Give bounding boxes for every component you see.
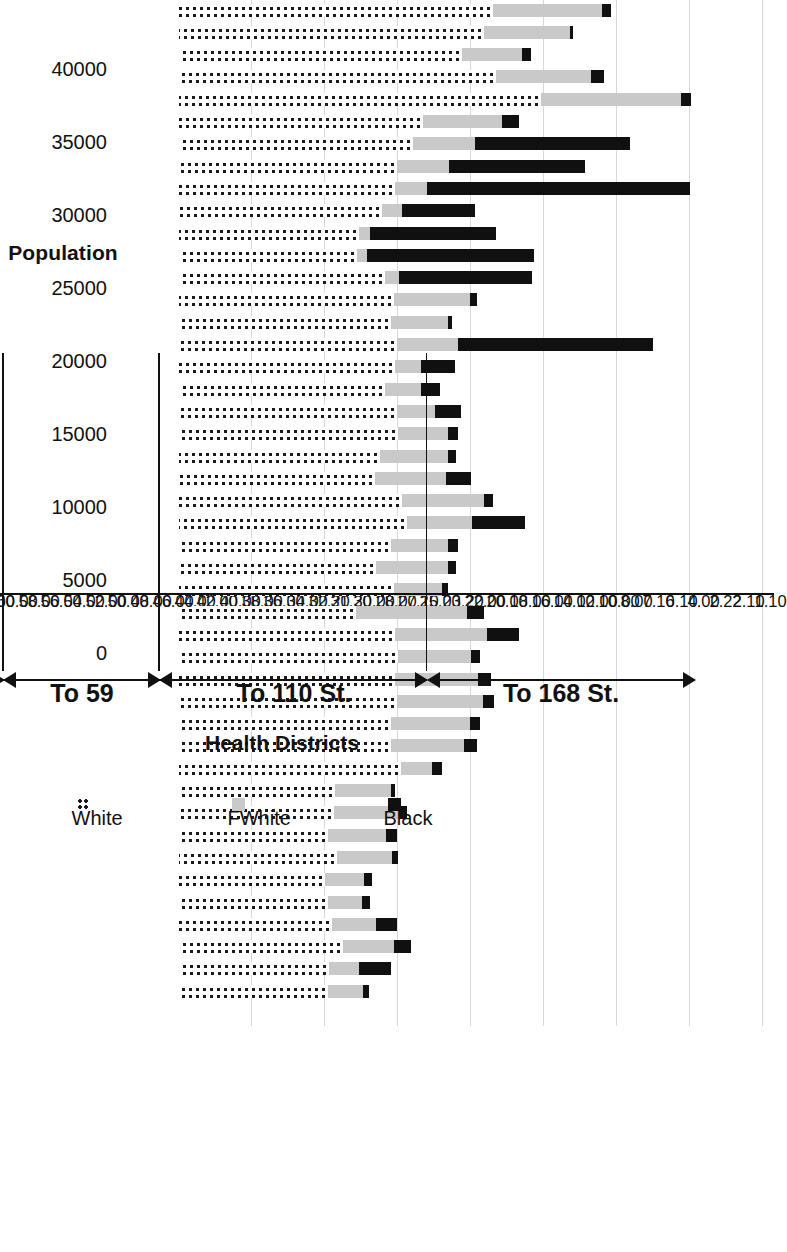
bar-segment-black [448, 316, 452, 329]
bar-segment-fwhite [397, 160, 450, 173]
bar-segment-black [370, 227, 496, 240]
bar-stack [179, 606, 484, 619]
bar-stack [179, 873, 372, 886]
value-axis-tick-label: 25000 [0, 277, 107, 299]
bar-segment-fwhite [541, 93, 681, 106]
bar-stack [179, 494, 493, 507]
category-axis-line [0, 593, 774, 595]
bar-segment-fwhite [357, 249, 367, 262]
bar-segment-black [602, 4, 611, 17]
bar-stack [179, 717, 480, 730]
bar-stack [179, 962, 391, 975]
bar-segment-white [179, 249, 357, 262]
bar-segment-black [427, 182, 690, 195]
bar-segment-black [364, 873, 371, 886]
bar-segment-white [179, 427, 398, 440]
value-gridline [470, 0, 471, 1026]
bar-segment-white [179, 472, 375, 485]
bar-segment-fwhite [385, 383, 422, 396]
bar-segment-fwhite [381, 450, 448, 463]
bar-segment-fwhite [462, 48, 522, 61]
bar-stack [179, 227, 496, 240]
bar-stack [179, 762, 442, 775]
bar-stack [179, 316, 452, 329]
value-axis-tick-label: 5000 [0, 569, 107, 591]
bar-segment-fwhite [328, 985, 363, 998]
bar-segment-fwhite [337, 851, 392, 864]
bar-segment-white [179, 940, 343, 953]
bar-segment-fwhite [397, 405, 435, 418]
bar-segment-white [179, 717, 391, 730]
bar-stack [179, 70, 604, 83]
value-gridline [397, 0, 398, 1026]
bar-segment-black [464, 739, 477, 752]
bar-segment-white [179, 539, 391, 552]
bar-segment-black [448, 450, 457, 463]
bar-segment-fwhite [401, 762, 432, 775]
bar-segment-black [363, 985, 369, 998]
bar-segment-fwhite [332, 918, 376, 931]
bar-stack [179, 249, 534, 262]
bar-stack [179, 427, 458, 440]
bar-segment-black [394, 940, 412, 953]
bar-segment-white [179, 851, 337, 864]
bar-segment-fwhite [335, 784, 390, 797]
bar-segment-fwhite [376, 561, 448, 574]
group-bracket-arrow-start [0, 672, 5, 688]
bar-segment-white [179, 204, 382, 217]
bar-stack [179, 383, 440, 396]
bar-segment-black [502, 115, 520, 128]
bar-segment-white [179, 873, 325, 886]
bar-segment-black [446, 472, 471, 485]
bar-segment-black [402, 204, 475, 217]
bar-stack [179, 829, 397, 842]
bar-stack [179, 293, 477, 306]
bar-segment-fwhite [496, 70, 591, 83]
bar-segment-fwhite [413, 137, 476, 150]
bar-segment-white [179, 985, 328, 998]
bar-stack [179, 405, 461, 418]
bar-segment-fwhite [395, 628, 487, 641]
bar-segment-white [179, 896, 328, 909]
bar-segment-black [359, 962, 391, 975]
bar-segment-white [179, 271, 385, 284]
value-gridline [324, 0, 325, 1026]
bar-segment-black [367, 249, 533, 262]
value-gridline [543, 0, 544, 1026]
bar-stack [179, 338, 654, 351]
bar-segment-black [362, 896, 371, 909]
bar-segment-white [179, 338, 397, 351]
bar-segment-fwhite [398, 427, 448, 440]
group-bracket-arrow-start [416, 672, 429, 688]
bar-segment-fwhite [484, 26, 570, 39]
bar-segment-black [435, 405, 461, 418]
bar-segment-white [179, 293, 394, 306]
bar-segment-black [448, 427, 458, 440]
bar-segment-white [179, 962, 329, 975]
bar-segment-white [179, 383, 385, 396]
legend-label-fwhite: FWhite [227, 807, 290, 830]
bar-segment-fwhite [343, 940, 394, 953]
value-gridline [762, 0, 763, 1026]
bar-segment-fwhite [402, 494, 484, 507]
bar-segment-white [179, 26, 484, 39]
bar-segment-fwhite [325, 873, 364, 886]
bar-segment-fwhite [398, 650, 471, 663]
bar-stack [179, 896, 370, 909]
value-gridline [251, 0, 252, 1026]
category-axis-title: Health Districts [182, 731, 382, 755]
bar-segment-fwhite [328, 829, 386, 842]
bar-segment-black [470, 717, 480, 730]
bar-segment-white [179, 405, 397, 418]
bar-segment-black [376, 918, 396, 931]
bar-segment-white [179, 650, 398, 663]
bar-segment-fwhite [359, 227, 371, 240]
bar-segment-white [179, 784, 335, 797]
bar-segment-fwhite [385, 271, 400, 284]
value-gridline [689, 0, 690, 1026]
bar-stack [179, 516, 525, 529]
bar-segment-black [681, 93, 691, 106]
bar-stack [179, 360, 455, 373]
group-boundary-line [2, 353, 4, 671]
